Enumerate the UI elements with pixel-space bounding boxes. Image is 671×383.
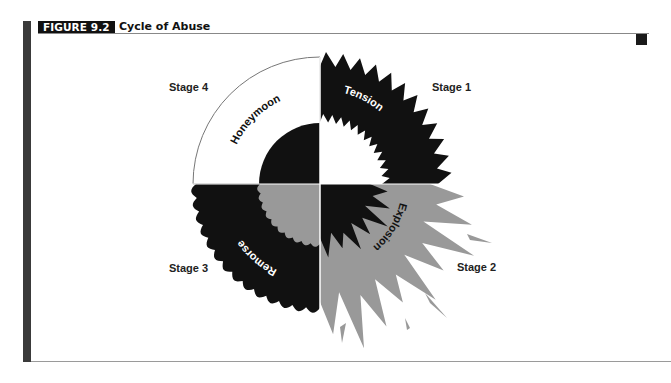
stage-label-2: Stage 2 bbox=[457, 261, 496, 273]
honeymoon-quadrant bbox=[193, 57, 320, 184]
stage-label-3: Stage 3 bbox=[169, 262, 208, 274]
stage-label-4: Stage 4 bbox=[169, 81, 208, 93]
stage-label-1: Stage 1 bbox=[432, 81, 471, 93]
cycle-diagram: Honeymoon Tension Remorse Explosion bbox=[0, 0, 671, 383]
remorse-quadrant bbox=[191, 184, 320, 313]
tension-quadrant bbox=[320, 52, 452, 184]
